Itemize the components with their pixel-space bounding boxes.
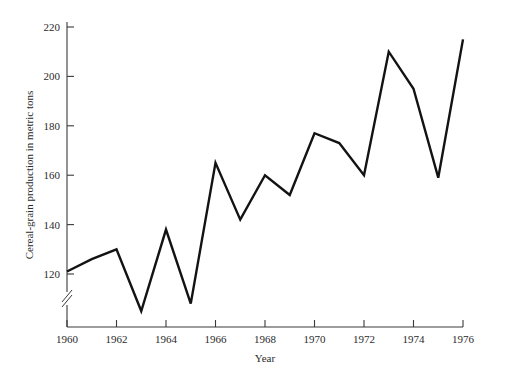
y-tick-label-180: 180 <box>44 120 61 132</box>
y-tick-label-220: 220 <box>44 21 61 33</box>
x-tick-label-1976: 1976 <box>452 333 475 345</box>
y-axis-title: Cereal-grain production in metric tons <box>23 91 35 260</box>
x-axis-title: Year <box>255 352 276 364</box>
y-tick-label-160: 160 <box>44 169 61 181</box>
x-tick-label-1974: 1974 <box>403 333 426 345</box>
y-tick-label-200: 200 <box>44 70 61 82</box>
line-chart: 220 200 180 160 140 120 1960 1962 1964 1… <box>0 0 505 375</box>
chart-container: 220 200 180 160 140 120 1960 1962 1964 1… <box>0 0 505 375</box>
y-tick-label-120: 120 <box>44 268 61 280</box>
x-tick-label-1964: 1964 <box>155 333 178 345</box>
x-tick-label-1972: 1972 <box>353 333 375 345</box>
axis-break-icon <box>62 290 72 307</box>
x-tick-label-1962: 1962 <box>106 333 128 345</box>
y-tick-label-140: 140 <box>44 219 61 231</box>
x-tick-label-1970: 1970 <box>304 333 327 345</box>
x-tick-label-1968: 1968 <box>254 333 277 345</box>
x-tick-label-1966: 1966 <box>205 333 228 345</box>
y-tick-marks <box>67 27 74 274</box>
data-series-line <box>67 39 463 311</box>
x-tick-label-1960: 1960 <box>56 333 79 345</box>
x-tick-marks <box>67 320 463 327</box>
